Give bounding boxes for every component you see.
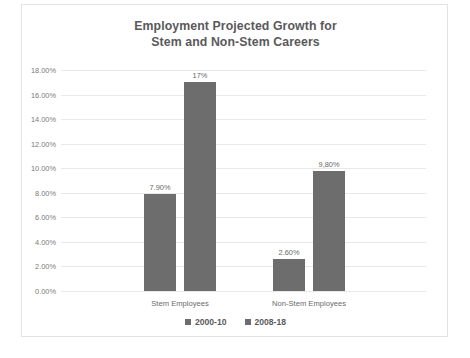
- y-axis-tick-label: 2.00%: [22, 262, 56, 271]
- bar-series-group: 7.90%17%2.60%9,80%: [61, 70, 426, 291]
- y-axis-tick-label: 14.00%: [22, 115, 56, 124]
- plot-area: 0.00%2.00%4.00%6.00%8.00%10.00%12.00%14.…: [61, 66, 426, 295]
- legend-item[interactable]: 2008-18: [245, 317, 287, 327]
- bar: [184, 82, 216, 291]
- y-axis-tick-label: 10.00%: [22, 164, 56, 173]
- legend-swatch-icon: [245, 319, 251, 325]
- y-axis-tick-label: 12.00%: [22, 139, 56, 148]
- chart-title-line-1: Employment Projected Growth for: [22, 18, 449, 34]
- x-axis-category-label: Stem Employees: [151, 299, 208, 308]
- x-axis-category-labels: Stem EmployeesNon-Stem Employees: [61, 299, 426, 313]
- legend-item[interactable]: 2000-10: [185, 317, 227, 327]
- chart-title: Employment Projected Growth for Stem and…: [22, 18, 449, 50]
- y-axis: 0.00%2.00%4.00%6.00%8.00%10.00%12.00%14.…: [22, 70, 56, 291]
- legend-swatch-icon: [185, 319, 191, 325]
- gridline: [61, 291, 426, 292]
- y-axis-tick-label: 6.00%: [22, 213, 56, 222]
- bar-value-label: 7.90%: [150, 183, 171, 192]
- chart-legend: 2000-102008-18: [22, 317, 449, 327]
- y-axis-tick-label: 16.00%: [22, 90, 56, 99]
- bar: [273, 259, 305, 291]
- bar-value-label: 9,80%: [319, 160, 340, 169]
- chart-container: Employment Projected Growth for Stem and…: [21, 4, 448, 337]
- legend-label: 2008-18: [255, 317, 287, 327]
- bar-value-label: 17%: [193, 71, 208, 80]
- chart-title-line-2: Stem and Non-Stem Careers: [22, 34, 449, 50]
- y-axis-tick-label: 0.00%: [22, 287, 56, 296]
- x-axis-category-label: Non-Stem Employees: [272, 299, 346, 308]
- y-axis-tick-label: 18.00%: [22, 66, 56, 75]
- y-axis-tick-label: 8.00%: [22, 188, 56, 197]
- bar: [144, 194, 176, 291]
- bar-value-label: 2.60%: [279, 248, 300, 257]
- bar: [313, 171, 345, 291]
- legend-label: 2000-10: [195, 317, 227, 327]
- y-axis-tick-label: 4.00%: [22, 237, 56, 246]
